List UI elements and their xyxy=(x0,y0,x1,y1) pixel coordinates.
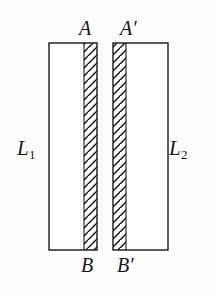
physics-diagram: A A′ B B′ L1 L2 xyxy=(0,0,214,295)
right-slab-hatching xyxy=(113,43,126,250)
label-l1-subscript: 1 xyxy=(29,147,36,162)
label-l1-base: L xyxy=(17,136,29,160)
label-a-prime-mark: ′ xyxy=(132,17,136,39)
label-b-prime-mark: ′ xyxy=(129,254,133,276)
right-slab-group xyxy=(113,43,168,250)
label-b: B xyxy=(81,255,93,275)
label-l2-base: L xyxy=(169,136,181,160)
left-slab-hatching xyxy=(84,43,97,250)
label-a-prime-base: A xyxy=(120,17,132,39)
label-l2-subscript: 2 xyxy=(181,147,188,162)
label-a-prime: A′ xyxy=(120,18,137,38)
label-b-prime: B′ xyxy=(117,255,134,275)
label-l1: L1 xyxy=(17,138,35,159)
left-slab-group xyxy=(49,43,97,250)
label-a: A xyxy=(79,18,91,38)
label-l2: L2 xyxy=(169,138,187,159)
label-b-prime-base: B xyxy=(117,254,129,276)
